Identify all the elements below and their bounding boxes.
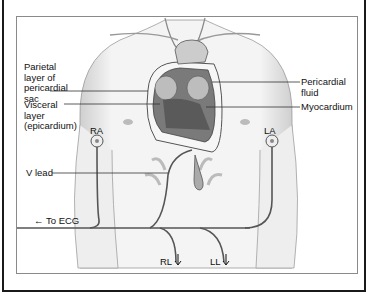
label-parietal-layer: Parietal layer of pericardial sac xyxy=(24,62,68,104)
label-visceral-layer: Visceral layer (epicardium) xyxy=(24,100,77,132)
label-v-lead: V lead xyxy=(26,168,53,179)
label-pericardial-fluid: Pericardial fluid xyxy=(301,77,346,98)
left-arrow-icon: ← xyxy=(34,215,44,226)
aorta xyxy=(175,40,208,64)
label-to-ecg: ← To ECG xyxy=(34,216,79,227)
label-myocardium: Myocardium xyxy=(301,102,353,113)
chest-illustration xyxy=(0,0,371,299)
label-ll: LL xyxy=(210,257,221,268)
label-rl: RL xyxy=(160,257,172,268)
label-la: LA xyxy=(264,126,276,137)
label-ra: RA xyxy=(90,126,103,137)
